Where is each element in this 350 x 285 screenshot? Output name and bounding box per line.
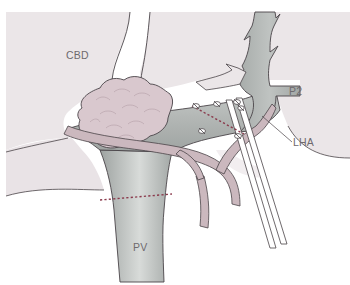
portal-vein-trunk <box>100 150 172 282</box>
label-pv: PV <box>133 241 147 253</box>
label-lha: LHA <box>293 136 314 148</box>
suture-knot-icon <box>214 101 221 107</box>
label-p2: P2 <box>289 85 302 97</box>
suture-knot-icon <box>238 105 244 111</box>
suture-knot-icon <box>235 133 242 139</box>
label-cbd: CBD <box>66 49 89 61</box>
suture-knot-icon <box>199 128 206 134</box>
suture-knot-icon <box>234 99 241 105</box>
artery-descending-branch <box>196 176 209 228</box>
suture-knot-icon <box>193 103 200 109</box>
liver-hilar-plate <box>6 138 104 196</box>
